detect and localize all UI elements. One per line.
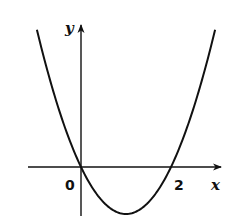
parabola-graph: y x 0 2 [0,0,233,216]
tick-label-2: 2 [174,177,184,193]
parabola-curve [37,30,215,214]
origin-label: 0 [65,177,75,193]
y-axis-label: y [64,19,75,37]
x-axis-label: x [210,176,221,194]
